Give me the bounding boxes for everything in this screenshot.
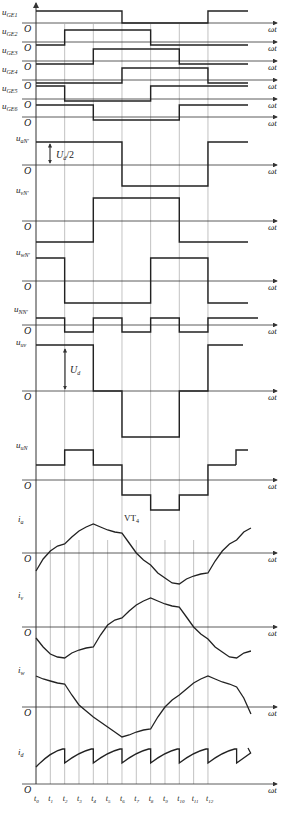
inverter-waveform-diagram: ωtOuGE1ωtOuGE2ωtOuGE3ωtOuGE4ωtOuGE5ωtOuG… [0,0,289,813]
origin-label: O [24,99,31,110]
tick-label-t2: t2 [63,794,68,804]
label-uuN: uuN [16,440,29,451]
omega-t-label: ωt [268,554,277,564]
omega-t-label: ωt [268,222,277,232]
origin-label: O [24,707,31,718]
origin-label: O [24,480,31,491]
origin-label: O [24,61,31,72]
wave-ia [36,524,251,584]
tick-label-t8: t8 [149,794,154,804]
labels: ωtOuGE1ωtOuGE2ωtOuGE3ωtOuGE4ωtOuGE5ωtOuG… [2,7,277,804]
tick-label-t12: t12 [206,794,214,804]
vt4-annotation: VT4 [124,513,139,524]
omega-t-label: ωt [268,481,277,491]
label-id: id [18,747,25,758]
omega-t-label: ωt [268,43,277,53]
label-ia: ia [18,514,24,525]
origin-label: O [24,42,31,53]
origin-label: O [24,221,31,232]
omega-t-label: ωt [268,282,277,292]
tick-label-t10: t10 [177,794,185,804]
omega-t-label: ωt [268,62,277,72]
origin-label: O [24,784,31,795]
ud-label: Ud [70,364,81,376]
omega-t-label: ωt [268,118,277,128]
omega-t-label: ωt [268,100,277,110]
label-uwN: uwN' [16,247,31,258]
label-iw: iw [18,665,25,676]
ud-half-label: Ud/2 [56,149,74,161]
wave-uGE4 [36,68,248,83]
omega-t-label: ωt [268,326,277,336]
label-uaN: uaN' [16,133,30,144]
tick-label-t3: t3 [77,794,82,804]
tick-label-t0: t0 [34,794,39,804]
wave-uwN [36,258,248,303]
wave-uGE6 [36,105,248,120]
tick-label-t6: t6 [120,794,125,804]
tick-label-t7: t7 [134,794,139,804]
waveforms [36,11,258,767]
time-gridlines [50,24,208,784]
origin-label: O [24,165,31,176]
label-uNN: uNN' [14,304,29,315]
tick-label-t9: t9 [163,794,168,804]
omega-t-label: ωt [268,628,277,638]
wave-iw [36,676,251,737]
wave-uGE2 [36,30,248,45]
omega-t-label: ωt [268,81,277,91]
label-uGE6: uGE6 [2,101,18,112]
label-uGE3: uGE3 [2,45,18,56]
label-uvN: uvN' [16,185,29,196]
tick-label-t11: t11 [192,794,199,804]
origin-label: O [24,553,31,564]
label-uGE4: uGE4 [2,64,18,75]
label-uGE1: uGE1 [2,7,18,18]
origin-label: O [24,325,31,336]
label-uuv: uuv [16,337,27,348]
wave-iv [36,598,251,658]
omega-t-label: ωt [268,708,277,718]
wave-uvN [36,198,248,242]
omega-t-label: ωt [268,392,277,402]
tick-label-t5: t5 [106,794,111,804]
omega-t-label: ωt [268,785,277,795]
omega-t-label: ωt [268,24,277,34]
wave-uGE3 [36,49,248,64]
origin-label: O [24,627,31,638]
origin-label: O [24,391,31,402]
wave-uGE1 [36,11,248,23]
origin-label: O [24,23,31,34]
origin-label: O [24,117,31,128]
label-iv: iv [18,590,24,601]
origin-label: O [24,281,31,292]
tick-label-t1: t1 [48,794,53,804]
wave-id [36,748,251,767]
omega-t-label: ωt [268,166,277,176]
origin-label: O [24,80,31,91]
label-uGE5: uGE5 [2,83,18,94]
tick-label-t4: t4 [91,794,96,804]
label-uGE2: uGE2 [2,26,18,37]
